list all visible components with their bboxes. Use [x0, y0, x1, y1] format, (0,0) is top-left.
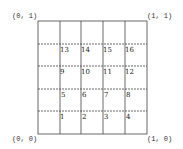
cell-number: 4: [126, 113, 131, 121]
cell-number: 11: [103, 68, 112, 76]
cell-number: 12: [125, 68, 134, 76]
corner-label-top-left: (0, 1): [12, 12, 37, 20]
cell-number: 15: [103, 46, 112, 54]
cell-number: 14: [81, 46, 90, 54]
cell-numbers: 13 14 15 16 9 10 11 12 5 6 7 8 1 2 3 4: [60, 46, 134, 121]
cell-number: 3: [104, 113, 108, 121]
cell-number: 10: [81, 68, 90, 76]
cell-number: 7: [104, 91, 108, 99]
corner-label-bottom-right: (1, 0): [147, 135, 172, 143]
cell-number: 2: [82, 113, 86, 121]
grid-diagram: (0, 1) (1, 1) (0, 0) (1, 0) 13 14 15 16 …: [0, 0, 183, 149]
cell-number: 16: [125, 46, 134, 54]
cell-number: 9: [60, 68, 64, 76]
cell-number: 13: [60, 46, 69, 54]
grid-lines: [38, 21, 147, 134]
cell-number: 6: [82, 91, 87, 99]
corner-label-top-right: (1, 1): [147, 12, 172, 20]
cell-number: 8: [126, 91, 130, 99]
cell-number: 1: [60, 113, 64, 121]
cell-number: 5: [61, 91, 65, 99]
outer-box: [38, 21, 147, 134]
corner-label-bottom-left: (0, 0): [12, 135, 37, 143]
